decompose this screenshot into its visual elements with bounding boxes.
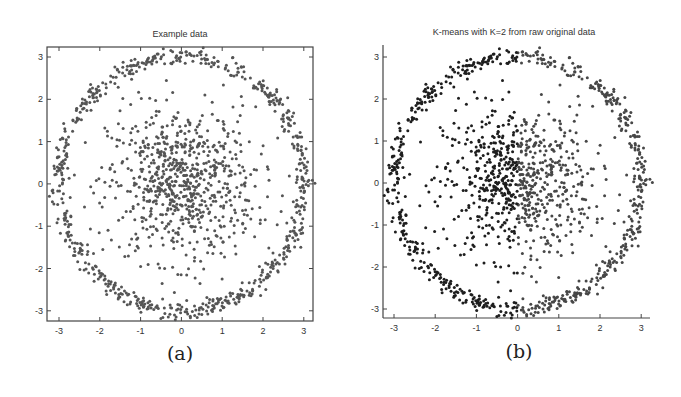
y-tick-label: -1 (35, 221, 43, 231)
y-tick-label: 0 (374, 178, 379, 188)
x-tick-label: 2 (260, 326, 265, 336)
panel-a: Example data -3-2-10123-3-2-10123 (a) (0, 0, 340, 397)
x-tick-label: 0 (515, 323, 520, 333)
y-tick-label: -2 (35, 264, 43, 274)
scatter-plot-a: -3-2-10123-3-2-10123 (0, 0, 340, 397)
y-tick-label: -1 (371, 220, 379, 230)
data-points (383, 46, 654, 319)
x-tick-label: 1 (556, 323, 561, 333)
panel-caption: (b) (506, 340, 533, 362)
scatter-plot-b: -3-2-10123-3-2-10123 (340, 0, 681, 397)
y-tick-label: 3 (374, 52, 379, 62)
x-tick-label: -3 (55, 326, 63, 336)
y-tick-label: 2 (38, 94, 43, 104)
y-tick-label: -3 (371, 304, 379, 314)
panel-caption: (a) (167, 342, 193, 364)
x-tick-label: 0 (179, 326, 184, 336)
x-tick-label: 3 (301, 326, 306, 336)
panel-b: K-means with K=2 from raw original data … (340, 0, 680, 397)
x-tick-label: 3 (639, 323, 644, 333)
y-tick-label: 2 (374, 94, 379, 104)
y-tick-label: -2 (371, 262, 379, 272)
y-tick-label: 1 (38, 137, 43, 147)
x-tick-label: -1 (137, 326, 145, 336)
x-tick-label: -3 (390, 323, 398, 333)
x-tick-label: 2 (597, 323, 602, 333)
x-tick-label: 1 (220, 326, 225, 336)
x-tick-label: -2 (96, 326, 104, 336)
x-tick-label: -2 (431, 323, 439, 333)
y-tick-label: 1 (374, 136, 379, 146)
x-tick-label: -1 (472, 323, 480, 333)
y-tick-label: 0 (38, 179, 43, 189)
y-tick-label: 3 (38, 52, 43, 62)
data-points (48, 46, 317, 321)
y-tick-label: -3 (35, 306, 43, 316)
